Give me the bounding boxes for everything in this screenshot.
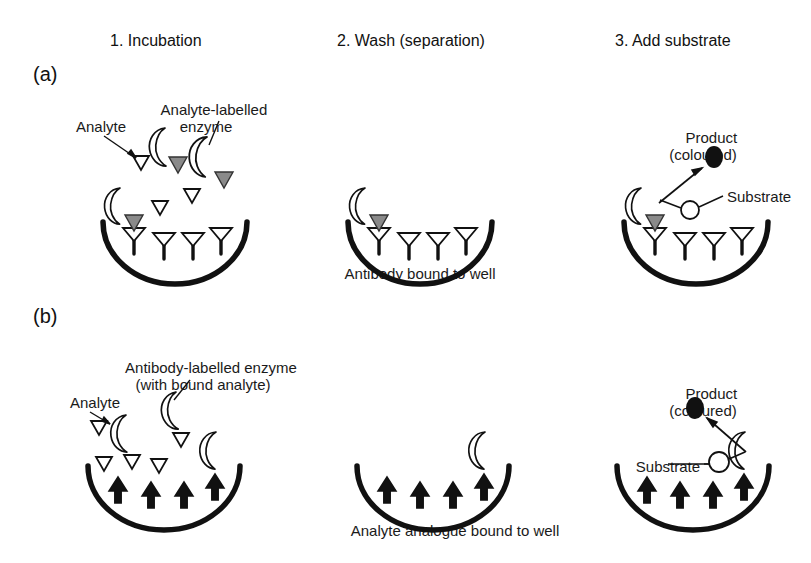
analyte-triangle-icon	[152, 201, 168, 215]
analogue-arrow-icon	[109, 477, 127, 503]
product-dot-icon	[705, 146, 723, 168]
antibody-icon	[153, 233, 175, 259]
well-a2	[347, 186, 492, 284]
antibody-icon	[210, 228, 232, 254]
well-b1	[88, 380, 240, 530]
gray-tri-icon	[215, 172, 233, 188]
crescent-enzyme-icon	[197, 430, 221, 469]
antibody-icon	[427, 233, 449, 259]
antibody-icon	[703, 233, 725, 259]
analogue-arrow-icon	[444, 482, 462, 508]
product-dot-icon	[686, 397, 704, 419]
analyte-triangle-icon	[173, 433, 189, 447]
analogue-arrow-icon	[475, 474, 493, 500]
analogue-arrow-icon	[142, 482, 160, 508]
antibody-icon	[455, 228, 477, 254]
leader-line-enzyme	[209, 121, 219, 145]
leader-line-antibody-enzyme	[174, 380, 190, 400]
analogue-arrow-icon	[638, 477, 656, 503]
analyte-triangle-icon	[91, 421, 107, 435]
crescent-enzyme-icon	[160, 391, 181, 429]
antibody-icon	[182, 233, 204, 259]
analyte-triangle-icon	[151, 459, 167, 473]
substrate-circle-icon	[709, 452, 729, 472]
analyte-triangle-icon	[184, 189, 200, 203]
analyte-triangle-icon	[96, 457, 112, 471]
antibody-icon	[731, 228, 753, 254]
crescent-enzyme-icon	[102, 186, 125, 224]
well-b2	[357, 430, 509, 530]
gray-tri-icon	[169, 157, 187, 173]
crescent-enzyme-icon	[109, 414, 131, 453]
antibody-icon	[398, 233, 420, 259]
analogue-arrow-icon	[378, 477, 396, 503]
well-a3	[623, 146, 768, 284]
figure-artwork	[0, 0, 811, 563]
elisa-figure: 1. Incubation 2. Wash (separation) 3. Ad…	[0, 0, 811, 563]
arrow-substrate-to-enzyme	[660, 200, 681, 208]
antibody-icon	[674, 233, 696, 259]
well-a1	[102, 121, 247, 284]
analogue-arrow-icon	[704, 482, 722, 508]
leader-line-substrate	[699, 196, 723, 207]
analogue-arrow-icon	[671, 482, 689, 508]
crescent-enzyme-icon	[466, 430, 490, 469]
crescent-enzyme-icon	[147, 127, 170, 167]
crescent-enzyme-icon	[347, 186, 370, 224]
crescent-enzyme-icon	[186, 134, 212, 176]
analogue-arrow-icon	[206, 474, 224, 500]
analogue-arrow-icon	[735, 474, 753, 500]
analogue-arrow-icon	[175, 482, 193, 508]
well-b3	[617, 397, 769, 530]
substrate-circle-icon	[681, 201, 699, 219]
crescent-enzyme-icon	[623, 186, 646, 224]
analogue-arrow-icon	[411, 482, 429, 508]
analyte-triangle-icon	[124, 455, 140, 469]
